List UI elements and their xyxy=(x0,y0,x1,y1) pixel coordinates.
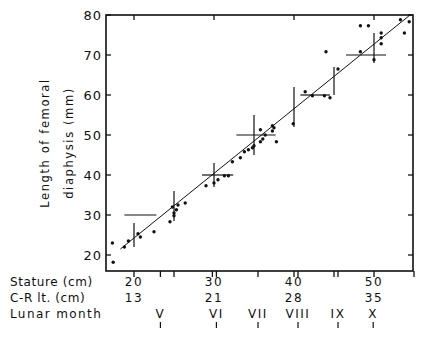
data-point xyxy=(372,58,375,61)
secondary-axis-value: VI xyxy=(209,307,224,321)
secondary-axis-value: 21 xyxy=(205,291,223,305)
data-point xyxy=(223,174,226,177)
data-point xyxy=(359,24,362,27)
data-point xyxy=(271,129,274,132)
secondary-axis-value: X xyxy=(368,307,378,321)
data-point xyxy=(247,148,250,151)
data-point xyxy=(359,50,362,53)
chart-figure: Length of femoral diaphysis (mm) 2030405… xyxy=(0,0,424,337)
lunar-month-row-label: Lunar month xyxy=(10,307,102,321)
data-point xyxy=(212,181,215,184)
y-tick-label: 20 xyxy=(83,248,102,263)
secondary-axis-labels: Stature (cm) C-R lt. (cm) Lunar month xyxy=(10,275,102,321)
secondary-axis-value: 40 xyxy=(285,275,303,289)
y-axis-label: Length of femoral diaphysis (mm) xyxy=(38,78,76,208)
data-point xyxy=(261,137,264,140)
data-point xyxy=(168,220,171,223)
secondary-axis-value: VII xyxy=(248,307,268,321)
regression-line-path xyxy=(120,15,410,249)
secondary-axis-value: 35 xyxy=(365,291,383,305)
data-point xyxy=(171,205,174,208)
data-point xyxy=(380,42,383,45)
data-point xyxy=(403,31,406,34)
data-point xyxy=(227,174,230,177)
data-point xyxy=(172,211,175,214)
data-point xyxy=(328,96,331,99)
scatter-chart: Length of femoral diaphysis (mm) 2030405… xyxy=(0,0,424,337)
data-point xyxy=(176,203,179,206)
data-point xyxy=(259,140,262,143)
secondary-axis-value: IX xyxy=(331,307,346,321)
data-point xyxy=(408,20,411,23)
data-point xyxy=(304,90,307,93)
data-point xyxy=(243,150,246,153)
secondary-axis-value: 20 xyxy=(125,275,143,289)
y-tick-label: 80 xyxy=(83,8,102,23)
data-point xyxy=(231,160,234,163)
data-point xyxy=(204,184,207,187)
secondary-axis-value: 30 xyxy=(205,275,223,289)
data-point xyxy=(252,144,255,147)
y-tick-label: 50 xyxy=(83,128,102,143)
data-point xyxy=(112,261,115,264)
x-axis-ticks xyxy=(134,15,414,277)
data-point xyxy=(184,201,187,204)
data-point xyxy=(271,124,274,127)
data-point xyxy=(123,245,126,248)
data-point xyxy=(275,140,278,143)
y-axis-label-line1: Length of femoral xyxy=(38,78,52,208)
data-point xyxy=(136,232,139,235)
data-point xyxy=(324,50,327,53)
secondary-axis-value: 28 xyxy=(285,291,303,305)
y-tick-label: 70 xyxy=(83,48,102,63)
secondary-axis-value: 50 xyxy=(365,275,383,289)
secondary-axis-values: 2030405013212835VVIVIIVIIIIXX xyxy=(125,275,383,328)
data-point xyxy=(311,94,314,97)
data-point xyxy=(175,208,178,211)
y-axis-label-line2: diaphysis (mm) xyxy=(62,87,76,199)
data-point xyxy=(323,94,326,97)
data-point xyxy=(292,122,295,125)
y-tick-label: 30 xyxy=(83,208,102,223)
secondary-axis-value: VIII xyxy=(286,307,311,321)
data-point xyxy=(111,241,114,244)
y-tick-label: 60 xyxy=(83,88,102,103)
data-point xyxy=(264,133,267,136)
data-point xyxy=(259,128,262,131)
data-point xyxy=(139,235,142,238)
data-point xyxy=(239,156,242,159)
data-point xyxy=(399,18,402,21)
stature-row-label: Stature (cm) xyxy=(10,275,93,289)
data-point xyxy=(380,36,383,39)
data-point xyxy=(336,67,339,70)
data-point xyxy=(152,230,155,233)
secondary-axis-value: V xyxy=(156,307,166,321)
data-point xyxy=(127,239,130,242)
regression-line xyxy=(120,15,410,249)
data-point xyxy=(216,178,219,181)
y-tick-label: 40 xyxy=(83,168,102,183)
data-point xyxy=(380,31,383,34)
data-point xyxy=(367,24,370,27)
crown-rump-row-label: C-R lt. (cm) xyxy=(10,291,85,305)
secondary-axis-value: 13 xyxy=(125,291,143,305)
